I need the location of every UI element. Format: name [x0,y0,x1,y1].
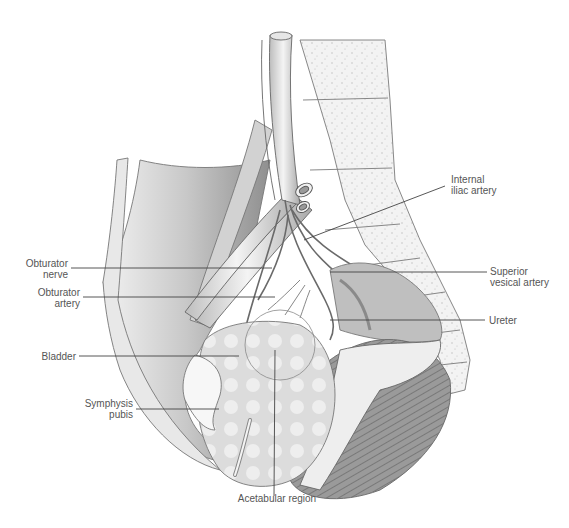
pelvis-illustration [0,0,569,528]
label-symphysis-pubis: Symphysis pubis [80,398,133,420]
anatomy-figure: Obturator nerve Obturator artery Bladder… [0,0,569,528]
label-bladder: Bladder [30,351,76,362]
label-superior-vesical-artery: Superior vesical artery [490,266,569,288]
label-obturator-nerve: Obturator nerve [20,258,68,280]
label-acetabular-region: Acetabular region [222,493,332,504]
label-ureter: Ureter [489,315,539,326]
label-obturator-artery: Obturator artery [32,287,80,309]
common-iliac-trunk [262,32,300,205]
label-internal-iliac-artery: Internal iliac artery [451,174,531,196]
small-vessel-twigs [268,280,310,318]
